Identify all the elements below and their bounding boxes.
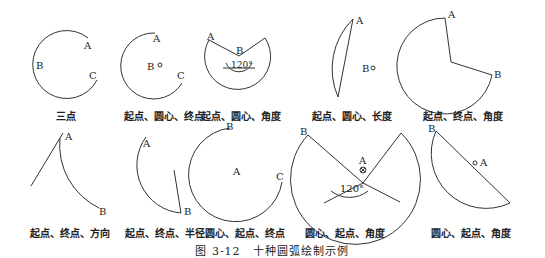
point-label: A <box>153 33 160 45</box>
angle-label: 120° <box>231 59 253 71</box>
panel-caption: 起点、终点、方向 <box>30 225 110 240</box>
panel-caption: 起点、圆心、角度 <box>201 108 281 123</box>
panel-caption: 三点 <box>56 108 76 123</box>
point-label: B <box>362 63 369 75</box>
center-marker <box>371 66 375 70</box>
point-label: A <box>448 9 455 21</box>
point-label: C <box>89 70 97 82</box>
arc-start-end-direction <box>60 138 99 208</box>
point-label: A <box>359 155 366 167</box>
panel-caption: 圆心、起点、终点 <box>205 225 285 240</box>
point-label: B <box>99 206 106 218</box>
arc-drawings <box>0 0 545 258</box>
panel-caption: 圆心、起点、角度 <box>305 225 385 240</box>
point-label: B <box>300 126 307 138</box>
point-label: A <box>143 138 150 150</box>
point-label: A <box>207 31 214 43</box>
point-label: B <box>184 206 191 218</box>
arc-center-start-angle-2 <box>431 131 510 208</box>
point-label: B <box>236 45 243 57</box>
figure-caption: 图 3-12 十种圆弧绘制示例 <box>195 242 348 258</box>
point-label: A <box>480 157 487 169</box>
point-label: A <box>356 15 363 27</box>
arc-start-end-angle <box>397 18 492 114</box>
point-label: A <box>65 131 72 143</box>
point-label: B <box>428 123 435 135</box>
panel-caption: 起点、终点、半径 <box>125 225 205 240</box>
point-label: A <box>233 166 240 178</box>
center-marker <box>158 63 162 67</box>
point-label: A <box>84 40 91 52</box>
point-label: C <box>276 171 284 183</box>
panel-caption: 圆心、起点、角度 <box>431 225 511 240</box>
point-label: B <box>494 69 501 81</box>
panel-caption: 起点、终点、角度 <box>423 108 503 123</box>
point-label: B <box>36 60 43 72</box>
point-label: C <box>177 70 185 82</box>
center-marker <box>473 161 477 165</box>
point-label: B <box>147 61 154 73</box>
direction-line <box>31 133 63 186</box>
panel-caption: 起点、圆心、终点 <box>124 108 204 123</box>
figure-canvas: A B C A B C A B 120° A B A B A B A B A B… <box>0 0 545 258</box>
angle-label: 120° <box>340 183 364 195</box>
panel-caption: 起点、圆心、长度 <box>312 108 392 123</box>
arc-start-center-length <box>332 19 353 97</box>
